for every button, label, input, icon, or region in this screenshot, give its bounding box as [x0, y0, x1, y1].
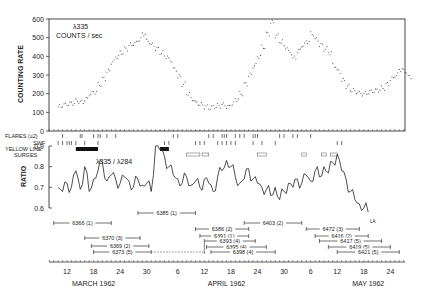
data-point	[402, 68, 403, 69]
data-point	[363, 93, 364, 94]
y-tick-label: 0.6	[34, 205, 44, 212]
surge-box	[302, 153, 306, 156]
data-point	[264, 48, 265, 49]
data-point	[266, 32, 267, 33]
data-point	[378, 92, 379, 93]
y-tick-label: 600	[32, 16, 44, 23]
data-point	[213, 105, 214, 106]
data-point	[120, 50, 121, 51]
y-tick-label: 300	[32, 72, 44, 79]
data-point	[242, 95, 243, 96]
data-point	[377, 89, 378, 90]
data-point	[393, 77, 394, 78]
data-point	[111, 64, 112, 65]
data-point	[270, 23, 271, 24]
data-point	[195, 101, 196, 102]
data-point	[279, 42, 280, 43]
data-point	[390, 80, 391, 81]
data-point	[127, 51, 128, 52]
data-point	[90, 94, 91, 95]
data-point	[117, 58, 118, 59]
data-point	[80, 101, 81, 102]
data-point	[356, 93, 357, 94]
data-point	[173, 67, 174, 68]
surge-box	[257, 153, 266, 156]
data-point	[180, 76, 181, 77]
region-bars: 6366 (1)6370 (3)6369 (2)6373 (5)6385 (1)…	[54, 210, 400, 255]
data-point	[114, 59, 115, 60]
data-point	[188, 95, 189, 96]
data-point	[255, 63, 256, 64]
y-tick-label: 0.8	[34, 163, 44, 170]
data-point	[241, 94, 242, 95]
data-point	[353, 88, 354, 89]
data-point	[182, 86, 183, 87]
plot-frame	[49, 19, 405, 131]
data-point	[151, 44, 152, 45]
ratio-axes: 0.60.70.80.9RATIOλ335 / λ284LA	[20, 143, 376, 225]
data-point	[66, 105, 67, 106]
date-axis: 121824306121824306121824MARCH 1962APRIL …	[49, 260, 405, 287]
data-point	[75, 98, 76, 99]
y-axis-label: RATIO	[20, 165, 27, 187]
data-point	[186, 94, 187, 95]
data-point	[312, 34, 313, 35]
data-point	[408, 75, 409, 76]
data-point	[258, 58, 259, 59]
data-point	[157, 47, 158, 48]
data-point	[300, 49, 301, 50]
data-point	[303, 46, 304, 47]
x-tick-label: 18	[90, 268, 98, 275]
data-point	[372, 92, 373, 93]
data-point	[334, 66, 335, 67]
data-point	[58, 106, 59, 107]
data-point	[158, 47, 159, 48]
data-point	[62, 106, 63, 107]
x-tick-label: 24	[386, 268, 394, 275]
data-point	[250, 72, 251, 73]
data-point	[170, 60, 171, 61]
region-label: 6403 (2)	[263, 220, 284, 226]
data-point	[335, 67, 336, 68]
data-point	[307, 43, 308, 44]
x-tick-label: 24	[116, 268, 124, 275]
data-point	[316, 37, 317, 38]
data-point	[325, 49, 326, 50]
data-point	[81, 100, 82, 101]
data-point	[244, 83, 245, 84]
y-tick-label: 400	[32, 53, 44, 60]
data-point	[103, 77, 104, 78]
data-point	[131, 45, 132, 46]
data-point	[397, 72, 398, 73]
data-point	[89, 95, 90, 96]
data-point	[340, 73, 341, 74]
data-point	[403, 69, 404, 70]
data-point	[174, 67, 175, 68]
flares-label: FLARES (≥2)	[5, 133, 38, 139]
data-point	[167, 55, 168, 56]
month-label: MAY 1962	[352, 280, 384, 287]
data-point	[297, 52, 298, 53]
data-point	[112, 61, 113, 62]
data-point	[284, 45, 285, 46]
data-point	[226, 108, 227, 109]
data-point	[319, 46, 320, 47]
data-point	[332, 63, 333, 64]
data-point	[100, 86, 101, 87]
event-bands: FLARES (≥2)SWFYELLOW LINESURGES	[5, 133, 342, 158]
data-point	[288, 50, 289, 51]
panel-title: λ335	[73, 23, 88, 30]
data-point	[78, 103, 79, 104]
data-point	[201, 102, 202, 103]
data-point	[282, 39, 283, 40]
month-label: MARCH 1962	[72, 280, 115, 287]
data-point	[63, 103, 64, 104]
data-point	[137, 40, 138, 41]
data-point	[207, 104, 208, 105]
x-tick-label: 30	[143, 268, 151, 275]
y-tick-label: 100	[32, 109, 44, 116]
region-label: 6421 (5)	[358, 249, 379, 255]
yellow-line-bar	[76, 147, 98, 151]
data-point	[309, 41, 310, 42]
data-point	[304, 43, 305, 44]
